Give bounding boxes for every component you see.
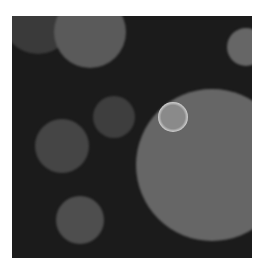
blob-bottom: [56, 196, 104, 244]
micrograph-image: [12, 16, 252, 258]
blob-large: [136, 89, 252, 241]
blob-left-medium: [35, 119, 89, 173]
blob-mid-small: [93, 96, 135, 138]
blob-top: [54, 16, 126, 68]
bright-ring: [158, 102, 188, 132]
blob-right-edge: [227, 28, 252, 66]
